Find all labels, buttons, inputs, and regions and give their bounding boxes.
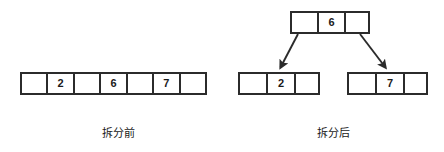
node-cell [240,74,268,93]
left-child-node: 2 [238,72,320,95]
before-split-caption: 拆分前 [102,124,135,140]
node-cell [75,74,101,93]
after-split-caption: 拆分后 [317,124,350,140]
arrow-to-left-child-icon [281,34,299,68]
node-cell: 6 [101,74,127,93]
node-cell [405,74,426,93]
node-cell [181,74,205,93]
node-cell: 2 [268,74,296,93]
node-cell [349,74,377,93]
btree-split-diagram: 2 6 7 拆分前 6 2 7 拆分后 [0,0,444,152]
node-cell: 7 [154,74,180,93]
arrow-to-right-child-icon [360,34,386,68]
node-cell [22,74,48,93]
node-cell [296,74,318,93]
node-cell: 6 [319,13,346,32]
before-split-node: 2 6 7 [20,72,207,95]
node-cell [292,13,319,32]
node-cell: 2 [48,74,74,93]
node-cell [346,13,368,32]
node-cell [128,74,154,93]
right-child-node: 7 [347,72,428,95]
node-cell: 7 [377,74,405,93]
parent-node: 6 [290,11,370,34]
